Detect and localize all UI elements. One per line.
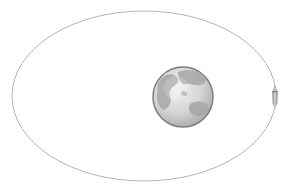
orbit-diagram <box>0 0 290 191</box>
rocket-icon <box>273 86 278 107</box>
orbit-canvas <box>0 0 290 191</box>
orbit-path <box>12 11 276 181</box>
earth-icon <box>153 67 213 127</box>
